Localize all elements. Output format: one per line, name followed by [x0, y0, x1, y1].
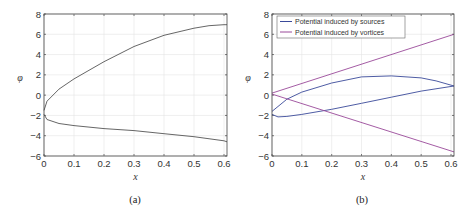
y-tick-label: −6 — [258, 151, 269, 162]
y-tick-label: 6 — [36, 29, 41, 40]
x-tick-label: 0.4 — [157, 158, 170, 169]
data-series — [272, 34, 454, 93]
y-tick-label: 4 — [264, 49, 269, 60]
y-tick-label: 2 — [264, 69, 269, 80]
y-tick-label: −6 — [30, 151, 41, 162]
x-tick-label: 0.1 — [295, 158, 308, 169]
x-tick-label: 0.6 — [444, 158, 457, 169]
caption-b: (b) — [356, 194, 369, 206]
x-tick-label: 0.1 — [67, 158, 80, 169]
y-tick-label: 2 — [36, 69, 41, 80]
y-tick-label: −4 — [258, 130, 269, 141]
y-tick-label: −2 — [30, 110, 41, 121]
figure: 00.10.20.30.40.50.6−6−4−202468xφ 00.10.2… — [0, 0, 468, 209]
legend-vortices-label: Potential induced by vortices — [295, 29, 385, 37]
y-tick-label: 0 — [264, 90, 269, 101]
x-tick-label: 0.5 — [415, 158, 428, 169]
data-series — [44, 25, 227, 111]
y-tick-label: −4 — [30, 130, 41, 141]
y-tick-label: 8 — [36, 9, 41, 20]
x-tick-label: 0.4 — [385, 158, 398, 169]
y-tick-label: 6 — [264, 29, 269, 40]
x-tick-label: 0.3 — [127, 158, 140, 169]
data-series — [272, 86, 454, 117]
caption-a: (a) — [129, 194, 141, 206]
y-tick-label: 8 — [264, 9, 269, 20]
data-series — [272, 76, 454, 112]
x-axis-label: x — [132, 171, 138, 182]
x-tick-label: 0.3 — [355, 158, 368, 169]
axes-frame — [44, 14, 227, 156]
y-tick-label: −2 — [258, 110, 269, 121]
x-tick-label: 0.5 — [187, 158, 200, 169]
panel-a: 00.10.20.30.40.50.6−6−4−202468xφ — [17, 9, 230, 183]
data-series — [44, 114, 227, 141]
y-axis-label: φ — [245, 72, 251, 83]
y-tick-label: 0 — [36, 90, 41, 101]
x-tick-label: 0.2 — [325, 158, 338, 169]
legend-sources-label: Potential induced by sources — [295, 18, 385, 26]
x-tick-label: 0.6 — [217, 158, 230, 169]
y-axis-label: φ — [17, 72, 23, 83]
x-axis-label: x — [360, 171, 366, 182]
x-tick-label: 0 — [41, 158, 46, 169]
legend: Potential induced by sources Potential i… — [277, 16, 405, 38]
x-tick-label: 0.2 — [97, 158, 110, 169]
x-tick-label: 0 — [269, 158, 274, 169]
y-tick-label: 4 — [36, 49, 41, 60]
